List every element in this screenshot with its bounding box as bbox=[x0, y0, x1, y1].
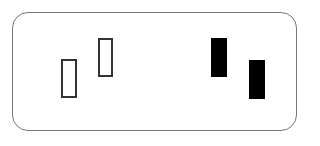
hollow-bar-2 bbox=[98, 38, 113, 77]
hollow-bar-1 bbox=[61, 59, 77, 98]
filled-bar-2 bbox=[249, 60, 265, 99]
filled-bar-1 bbox=[211, 38, 227, 77]
